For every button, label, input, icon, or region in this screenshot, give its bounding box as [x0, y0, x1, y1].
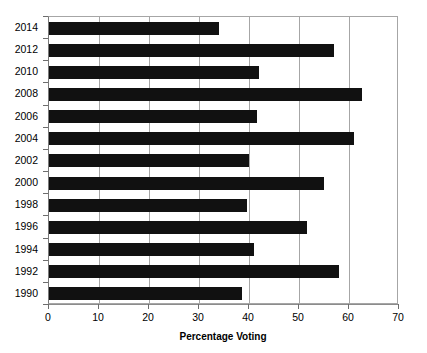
- x-axis-label: 0: [45, 311, 51, 323]
- bar[interactable]: [49, 265, 339, 278]
- bar-slot: [49, 106, 399, 128]
- bar-slot: [49, 150, 399, 172]
- y-axis-tick: [43, 60, 48, 61]
- bar-slot: [49, 194, 399, 216]
- bar[interactable]: [49, 177, 324, 190]
- y-axis-label: 2008: [15, 82, 38, 104]
- x-axis-tick: [48, 304, 49, 309]
- bar-slot: [49, 39, 399, 61]
- x-axis-tick: [398, 304, 399, 309]
- x-axis-tick: [98, 304, 99, 309]
- y-axis-label: 1990: [15, 282, 38, 304]
- x-axis-label: 50: [292, 311, 304, 323]
- x-axis-tick: [148, 304, 149, 309]
- y-axis-tick: [43, 171, 48, 172]
- x-axis-tick: [298, 304, 299, 309]
- y-axis-tick: [43, 193, 48, 194]
- y-axis-label: 1996: [15, 215, 38, 237]
- x-axis-line: [48, 304, 398, 305]
- y-axis-tick: [43, 238, 48, 239]
- y-axis-tick: [43, 215, 48, 216]
- y-axis: 2014201220102008200620042002200019981996…: [0, 16, 48, 304]
- x-axis-tick: [198, 304, 199, 309]
- bar-slot: [49, 17, 399, 39]
- bar-slot: [49, 216, 399, 238]
- y-axis-label: 1992: [15, 260, 38, 282]
- plot-area: [48, 16, 398, 304]
- x-axis-title: Percentage Voting: [48, 331, 398, 342]
- bar-slot: [49, 261, 399, 283]
- bar[interactable]: [49, 287, 242, 300]
- bar[interactable]: [49, 88, 362, 101]
- bar[interactable]: [49, 44, 334, 57]
- x-axis-label: 20: [142, 311, 154, 323]
- bars-layer: [49, 17, 397, 303]
- y-axis-tick: [43, 105, 48, 106]
- y-axis-tick: [43, 127, 48, 128]
- x-axis-tick: [348, 304, 349, 309]
- bar[interactable]: [49, 154, 249, 167]
- y-axis-tick: [43, 282, 48, 283]
- y-axis-tick: [43, 16, 48, 17]
- x-axis-label: 60: [342, 311, 354, 323]
- y-axis-tick: [43, 38, 48, 39]
- y-axis-tick: [43, 82, 48, 83]
- y-axis-label: 2010: [15, 60, 38, 82]
- x-axis-label: 10: [92, 311, 104, 323]
- bar[interactable]: [49, 110, 257, 123]
- y-axis-label: 2014: [15, 16, 38, 38]
- y-axis-label: 1994: [15, 238, 38, 260]
- x-axis-label: 30: [192, 311, 204, 323]
- bar[interactable]: [49, 22, 219, 35]
- y-axis-tick: [43, 260, 48, 261]
- y-axis-label: 2000: [15, 171, 38, 193]
- bar-slot: [49, 61, 399, 83]
- bar[interactable]: [49, 66, 259, 79]
- bar[interactable]: [49, 132, 354, 145]
- y-axis-label: 2006: [15, 105, 38, 127]
- bar-slot: [49, 172, 399, 194]
- bar[interactable]: [49, 243, 254, 256]
- x-axis-label: 40: [242, 311, 254, 323]
- bar[interactable]: [49, 199, 247, 212]
- bar-slot: [49, 128, 399, 150]
- bar-slot: [49, 283, 399, 305]
- y-axis-tick: [43, 149, 48, 150]
- bar-slot: [49, 83, 399, 105]
- y-axis-label: 2012: [15, 38, 38, 60]
- bar-chart: 2014201220102008200620042002200019981996…: [0, 0, 427, 353]
- y-axis-label: 2004: [15, 127, 38, 149]
- x-axis-tick: [248, 304, 249, 309]
- bar[interactable]: [49, 221, 307, 234]
- bar-slot: [49, 239, 399, 261]
- x-axis-label: 70: [392, 311, 404, 323]
- y-axis-label: 2002: [15, 149, 38, 171]
- y-axis-label: 1998: [15, 193, 38, 215]
